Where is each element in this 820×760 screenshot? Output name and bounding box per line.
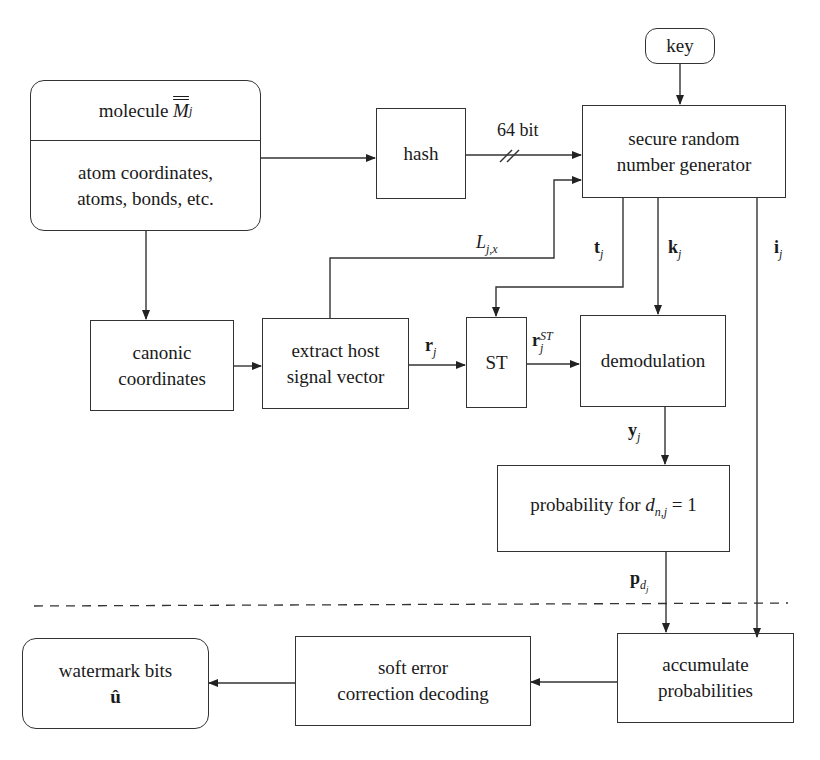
molecule-body-line1: atom coordinates,	[77, 160, 214, 186]
probability-var: d	[645, 494, 655, 515]
rst-base: r	[532, 330, 540, 350]
t-label: tj	[594, 237, 603, 262]
srng-node: secure random number generator	[582, 105, 786, 198]
k-label: kj	[668, 237, 681, 262]
molecule-node: molecule Mj atom coordinates, atoms, bon…	[30, 80, 261, 231]
r-base: r	[425, 335, 433, 355]
probability-prefix: probability for	[530, 494, 645, 515]
p-sub: dj	[640, 578, 649, 592]
rst-label: rSTj	[532, 330, 553, 354]
st-label: ST	[485, 350, 507, 376]
rst-sub: j	[540, 342, 553, 354]
r-label: rj	[425, 335, 436, 360]
molecule-title-text: molecule	[99, 98, 169, 124]
y-base: y	[628, 420, 637, 440]
srng-line2: number generator	[617, 152, 752, 178]
r-sub: j	[433, 345, 436, 359]
molecule-subscript: j	[189, 98, 192, 124]
probability-label: probability for dn,j = 1	[530, 492, 697, 525]
i-label: ij	[774, 237, 782, 262]
accumulate-line1: accumulate	[658, 652, 753, 678]
extract-line2: signal vector	[287, 364, 385, 390]
probability-sub: n,j	[655, 505, 667, 519]
bits-label: 64 bit	[497, 120, 539, 141]
srng-line1: secure random	[617, 126, 752, 152]
molecule-title: molecule Mj	[31, 81, 260, 141]
probability-node: probability for dn,j = 1	[497, 465, 730, 552]
i-sub: j	[779, 247, 782, 261]
molecule-body: atom coordinates, atoms, bonds, etc.	[31, 141, 260, 230]
softerr-line1: soft error	[337, 655, 488, 681]
hash-label: hash	[404, 141, 439, 167]
accumulate-node: accumulate probabilities	[617, 633, 794, 723]
l-sub: j,x	[486, 242, 498, 256]
k-base: k	[668, 237, 678, 257]
accumulate-line2: probabilities	[658, 678, 753, 704]
key-node: key	[645, 28, 715, 64]
canonic-line2: coordinates	[118, 366, 206, 392]
key-label: key	[666, 33, 693, 59]
p-base: p	[630, 568, 640, 588]
y-label: yj	[628, 420, 640, 445]
demodulation-label: demodulation	[601, 348, 705, 374]
extract-node: extract host signal vector	[262, 318, 409, 409]
probability-suffix: = 1	[667, 494, 697, 515]
hash-node: hash	[376, 108, 466, 199]
watermark-node: watermark bits û	[22, 638, 209, 729]
molecule-symbol: M	[173, 98, 189, 124]
y-sub: j	[637, 430, 640, 444]
p-label: pdj	[630, 568, 649, 594]
k-sub: j	[678, 247, 681, 261]
t-sub: j	[600, 247, 603, 261]
p-sub-j: j	[646, 584, 649, 594]
l-label: Lj,x	[476, 232, 498, 257]
softerr-line2: correction decoding	[337, 681, 488, 707]
dashed-separator	[34, 603, 788, 606]
watermark-line1: watermark bits	[59, 658, 172, 684]
watermark-line2: û	[59, 684, 172, 710]
soft-error-node: soft error correction decoding	[295, 636, 531, 726]
molecule-body-line2: atoms, bonds, etc.	[77, 186, 214, 212]
canonic-line1: canonic	[118, 340, 206, 366]
extract-line1: extract host	[287, 338, 385, 364]
st-node: ST	[466, 317, 527, 408]
demodulation-node: demodulation	[580, 315, 726, 407]
l-base: L	[476, 232, 486, 252]
canonic-node: canonic coordinates	[90, 320, 234, 411]
